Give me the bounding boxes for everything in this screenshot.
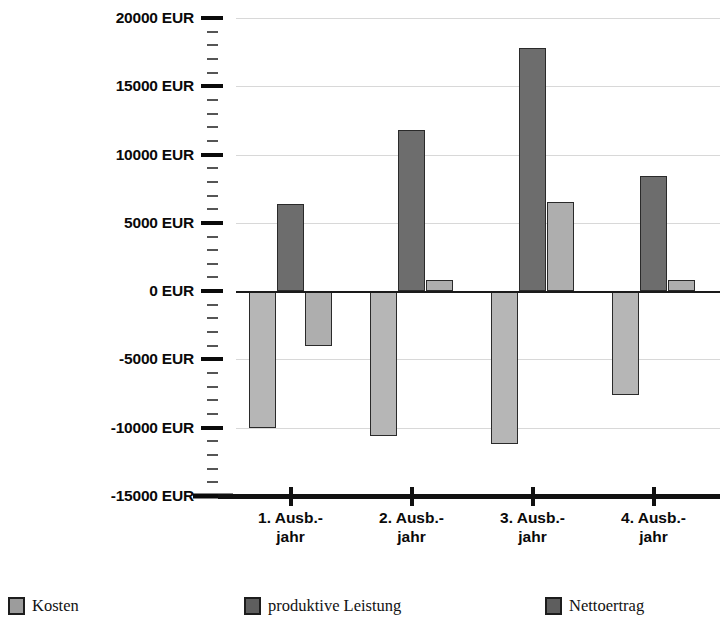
bar-kosten-group-2 (370, 291, 397, 436)
y-axis-minor-tick (207, 386, 218, 388)
y-axis-minor-tick (207, 113, 218, 115)
x-axis-label-line: jahr (258, 527, 323, 546)
y-axis-minor-tick (207, 276, 218, 278)
legend-item-produktive-leistung[interactable]: produktive Leistung (244, 596, 401, 616)
x-axis-tick (531, 487, 535, 506)
y-axis-tick (201, 153, 223, 157)
chart-legend: Kostenproduktive LeistungNettoertrag (0, 588, 723, 626)
x-axis-label-1: 1. Ausb.-jahr (258, 508, 323, 546)
zero-baseline (236, 291, 720, 293)
legend-item-nettoertrag[interactable]: Nettoertrag (545, 596, 644, 616)
x-axis-label-line: jahr (500, 527, 565, 546)
y-axis-tick (201, 16, 223, 20)
y-axis-minor-tick (207, 58, 218, 60)
bar-produktive-leistung-group-2 (398, 130, 425, 291)
y-axis-minor-tick (207, 263, 218, 265)
bar-produktive-leistung-group-3 (519, 48, 546, 291)
bar-produktive-leistung-group-4 (640, 176, 667, 291)
y-axis-minor-tick (207, 317, 218, 319)
y-axis-minor-tick (207, 181, 218, 183)
y-axis-label: 15000 EUR (116, 77, 194, 95)
x-axis-label-4: 4. Ausb.-jahr (621, 508, 686, 546)
gridline (236, 155, 720, 156)
y-axis-minor-tick (207, 236, 218, 238)
bar-nettoertrag-group-3 (547, 202, 574, 291)
y-axis-minor-tick (207, 440, 218, 442)
y-axis-minor-tick (207, 481, 218, 483)
y-axis-minor-tick (207, 195, 218, 197)
y-axis-minor-tick (207, 31, 218, 33)
y-axis-minor-tick (207, 331, 218, 333)
y-axis-minor-tick (207, 208, 218, 210)
bar-nettoertrag-group-1 (305, 291, 332, 346)
x-axis-tick (289, 487, 293, 506)
y-axis-label: -15000 EUR (111, 487, 194, 505)
bar-nettoertrag-group-4 (668, 280, 695, 292)
x-axis-label-line: 2. Ausb.- (379, 508, 444, 527)
legend-label: Kosten (32, 596, 79, 616)
y-axis-minor-tick (207, 167, 218, 169)
plot-area (236, 18, 720, 496)
x-axis-label-line: 3. Ausb.- (500, 508, 565, 527)
gridline (236, 18, 720, 19)
y-axis-minor-tick (207, 72, 218, 74)
legend-swatch-icon (8, 597, 25, 615)
y-axis-label: -5000 EUR (119, 350, 194, 368)
legend-label: produktive Leistung (268, 596, 401, 616)
y-axis-label: 0 EUR (149, 282, 194, 300)
x-axis-label-line: 1. Ausb.- (258, 508, 323, 527)
y-axis: 20000 EUR15000 EUR10000 EUR5000 EUR0 EUR… (0, 0, 236, 631)
bar-nettoertrag-group-2 (426, 280, 453, 291)
y-axis-tick (201, 289, 223, 293)
x-axis-label-line: jahr (621, 527, 686, 546)
y-axis-minor-tick (207, 44, 218, 46)
y-axis-minor-tick (207, 345, 218, 347)
x-axis-label-line: 4. Ausb.- (621, 508, 686, 527)
y-axis-minor-tick (207, 249, 218, 251)
y-axis-tick (201, 426, 223, 430)
bar-kosten-group-3 (491, 291, 518, 444)
y-axis-tick (201, 221, 223, 225)
legend-label: Nettoertrag (569, 596, 644, 616)
legend-swatch-icon (545, 597, 562, 615)
y-axis-minor-tick (207, 304, 218, 306)
legend-swatch-icon (244, 597, 261, 615)
x-axis-tick (410, 487, 414, 506)
y-axis-label: 20000 EUR (116, 9, 194, 27)
x-axis-tick (652, 487, 656, 506)
y-axis-tick (201, 84, 223, 88)
y-axis-minor-tick (207, 126, 218, 128)
legend-item-kosten[interactable]: Kosten (8, 596, 79, 616)
gridline (236, 86, 720, 87)
gridline (236, 359, 720, 360)
y-axis-tick (201, 357, 223, 361)
gridline (236, 428, 720, 429)
x-axis-label-2: 2. Ausb.-jahr (379, 508, 444, 546)
bar-produktive-leistung-group-1 (277, 204, 304, 291)
y-axis-label: -10000 EUR (111, 419, 194, 437)
bar-kosten-group-1 (249, 291, 276, 428)
x-axis-label-line: jahr (379, 527, 444, 546)
x-axis-label-3: 3. Ausb.-jahr (500, 508, 565, 546)
y-axis-minor-tick (207, 99, 218, 101)
bar-kosten-group-4 (612, 291, 639, 395)
x-axis-line (218, 494, 720, 499)
y-axis-minor-tick (207, 372, 218, 374)
y-axis-label: 5000 EUR (124, 214, 194, 232)
y-axis-minor-tick (207, 399, 218, 401)
y-axis-minor-tick (207, 140, 218, 142)
y-axis-label: 10000 EUR (116, 146, 194, 164)
y-axis-minor-tick (207, 468, 218, 470)
y-axis-minor-tick (207, 413, 218, 415)
y-axis-minor-tick (207, 454, 218, 456)
bar-chart: 20000 EUR15000 EUR10000 EUR5000 EUR0 EUR… (0, 0, 723, 631)
